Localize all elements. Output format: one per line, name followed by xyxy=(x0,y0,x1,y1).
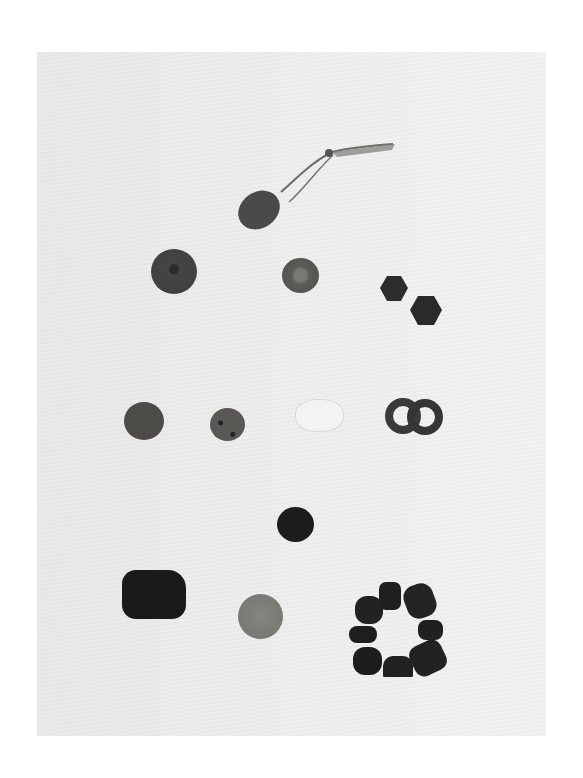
spotted-round-bead xyxy=(210,408,245,441)
medium-round-bead xyxy=(282,258,319,293)
large-round-bead xyxy=(151,249,197,294)
hexagonal-bead-2 xyxy=(409,295,443,326)
double-ring-bead xyxy=(384,398,446,436)
pendant-with-cord xyxy=(237,140,407,240)
dark-round-bead xyxy=(277,507,314,542)
light-round-bead xyxy=(238,594,283,639)
barrel-bead xyxy=(122,570,186,619)
bead-ring-cluster xyxy=(345,572,450,677)
round-bead-left xyxy=(124,402,164,440)
photo-background xyxy=(37,52,546,736)
hexagonal-bead-1 xyxy=(379,275,409,302)
clear-crystal-bead xyxy=(295,399,344,432)
